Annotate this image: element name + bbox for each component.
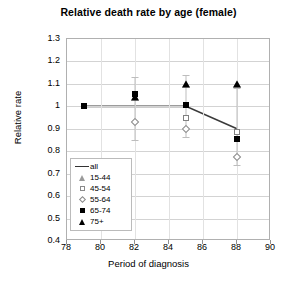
legend-item-15-44: 15-44 [74, 172, 128, 183]
error-bar-cap [132, 77, 139, 78]
chart-legend: all15-4445-5455-6465-7475+ [70, 158, 132, 231]
marker-glyph [75, 166, 89, 168]
y-tick-label: 0.7 [34, 169, 60, 178]
x-tick-label: 90 [258, 243, 282, 252]
y-tick-label: 0.5 [34, 214, 60, 223]
x-tick-label: 86 [190, 243, 214, 252]
y-axis-label: Relative rate [12, 68, 23, 168]
legend-label: 45-54 [90, 185, 110, 193]
y-tick-label: 1.3 [34, 34, 60, 43]
x-tick-label: 78 [54, 243, 78, 252]
data-point-45-54 [183, 115, 189, 121]
y-tick-label: 0.9 [34, 124, 60, 133]
error-bar-cap [183, 137, 190, 138]
x-tick-label: 88 [224, 243, 248, 252]
error-bar-cap [234, 88, 241, 89]
legend-item-75+: 75+ [74, 216, 128, 227]
y-tick-label: 0.6 [34, 191, 60, 200]
data-point-45-54 [234, 129, 240, 135]
data-point-65-74 [183, 102, 189, 108]
data-point-65-74 [234, 136, 240, 142]
error-bar [135, 77, 136, 140]
legend-label: 55-64 [90, 196, 110, 204]
legend-label: all [90, 163, 98, 171]
data-point-75+ [182, 80, 190, 87]
gridline-horizontal [67, 61, 269, 62]
error-bar-cap [183, 75, 190, 76]
x-tick-label: 82 [122, 243, 146, 252]
x-tick-mark [100, 240, 101, 244]
legend-label: 75+ [90, 218, 104, 226]
legend-item-all: all [74, 161, 128, 172]
x-tick-mark [236, 240, 237, 244]
legend-marker-icon [74, 186, 90, 191]
chart-container: Relative death rate by age (female) 0.40… [0, 0, 297, 291]
gridline-horizontal [67, 151, 269, 152]
error-bar-cap [234, 165, 241, 166]
y-tick-label: 1 [34, 101, 60, 110]
gridline-vertical [169, 39, 170, 239]
x-axis-label: Period of diagnosis [0, 258, 297, 269]
legend-marker-icon [74, 175, 90, 181]
y-tick-label: 1.2 [34, 56, 60, 65]
marker-glyph [80, 186, 85, 191]
marker-glyph [78, 196, 85, 203]
y-tick-label: 0.8 [34, 146, 60, 155]
data-point-65-74 [81, 103, 87, 109]
x-tick-mark [270, 240, 271, 244]
data-point-75+ [233, 80, 241, 87]
legend-item-45-54: 45-54 [74, 183, 128, 194]
y-tick-label: 1.1 [34, 79, 60, 88]
legend-marker-icon [74, 197, 90, 202]
gridline-vertical [203, 39, 204, 239]
marker-glyph [80, 208, 85, 213]
legend-label: 15-44 [90, 174, 110, 182]
x-tick-mark [168, 240, 169, 244]
legend-item-55-64: 55-64 [74, 194, 128, 205]
x-tick-label: 80 [88, 243, 112, 252]
legend-marker-icon [74, 166, 90, 168]
x-axis-ticks: 78808284868890 [0, 243, 297, 257]
x-tick-mark [66, 240, 67, 244]
legend-item-65-74: 65-74 [74, 205, 128, 216]
x-tick-mark [202, 240, 203, 244]
x-tick-mark [134, 240, 135, 244]
marker-glyph [79, 219, 85, 225]
error-bar-cap [132, 140, 139, 141]
legend-marker-icon [74, 219, 90, 225]
legend-label: 65-74 [90, 207, 110, 215]
data-point-75+ [131, 94, 139, 101]
legend-marker-icon [74, 208, 90, 213]
x-tick-label: 84 [156, 243, 180, 252]
marker-glyph [79, 175, 85, 181]
gridline-horizontal [67, 106, 269, 107]
